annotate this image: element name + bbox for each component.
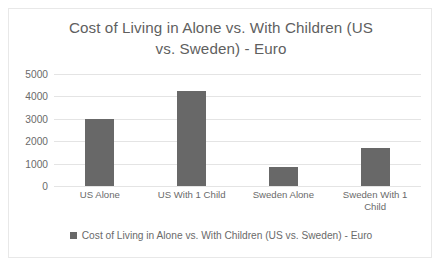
bar-slot [54, 74, 146, 186]
y-axis-tick-label: 1000 [25, 158, 48, 169]
x-axis-labels: US Alone US With 1 Child Sweden Alone Sw… [54, 189, 421, 213]
x-axis-label-sweden-with-1-child: Sweden With 1 Child [329, 189, 421, 213]
x-axis-label-us-alone: US Alone [54, 189, 146, 213]
bar-slot [238, 74, 330, 186]
bar-sweden-with-1-child[interactable] [361, 148, 390, 186]
bar-slot [329, 74, 421, 186]
bar-sweden-alone[interactable] [269, 167, 298, 186]
x-axis-label-us-with-1-child: US With 1 Child [146, 189, 238, 213]
y-axis-tick-label: 5000 [25, 69, 48, 80]
chart-container: Cost of Living in Alone vs. With Childre… [8, 8, 432, 258]
chart-title: Cost of Living in Alone vs. With Childre… [35, 17, 407, 59]
chart-legend: Cost of Living in Alone vs. With Childre… [9, 230, 433, 241]
y-axis-tick-label: 2000 [25, 136, 48, 147]
bar-slot [146, 74, 238, 186]
x-axis-label-sweden-alone: Sweden Alone [238, 189, 330, 213]
y-axis-tick-label: 3000 [25, 113, 48, 124]
plot-area: 5000 4000 3000 2000 1000 0 [54, 74, 421, 186]
bar-series [54, 74, 421, 186]
bar-us-alone[interactable] [85, 119, 114, 186]
gridline-0: 0 [54, 186, 421, 187]
y-axis-tick-label: 4000 [25, 91, 48, 102]
y-axis-tick-label: 0 [42, 181, 48, 192]
legend-label: Cost of Living in Alone vs. With Childre… [82, 230, 372, 241]
bar-us-with-1-child[interactable] [177, 91, 206, 186]
legend-swatch-icon [70, 232, 77, 239]
